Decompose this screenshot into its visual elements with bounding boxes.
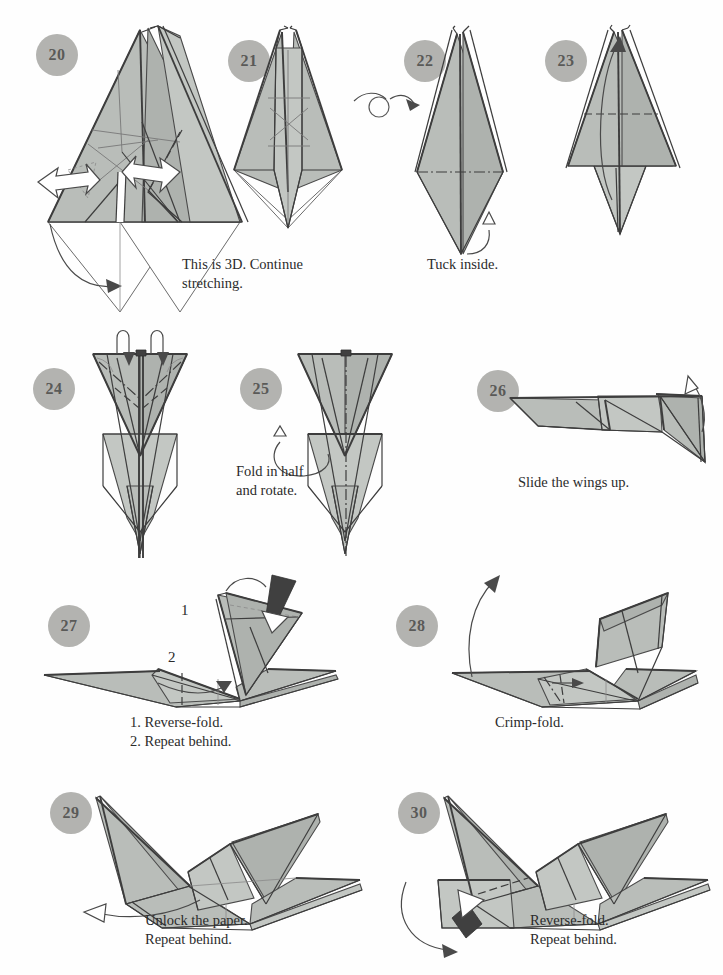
label-2: 2 bbox=[168, 648, 176, 668]
figure-step-24 bbox=[55, 336, 225, 561]
caption-step-21: This is 3D. Continue stretching. bbox=[182, 255, 303, 293]
figure-step-21 bbox=[218, 22, 358, 252]
figure-step-23 bbox=[550, 22, 690, 252]
caption-step-29: Unlock the paper. Repeat behind. bbox=[145, 911, 248, 949]
caption-step-22: Tuck inside. bbox=[427, 255, 498, 274]
figure-step-22 bbox=[395, 22, 530, 252]
figure-step-27 bbox=[40, 575, 340, 715]
caption-step-30: Reverse-fold. Repeat behind. bbox=[530, 911, 617, 949]
caption-step-28: Crimp-fold. bbox=[495, 713, 564, 732]
caption-step-25: Fold in half and rotate. bbox=[236, 462, 304, 500]
label-1: 1 bbox=[181, 601, 189, 621]
instruction-page: 20 bbox=[0, 0, 723, 975]
caption-step-27: 1. Reverse-fold. 2. Repeat behind. bbox=[130, 713, 231, 751]
caption-step-26: Slide the wings up. bbox=[518, 473, 629, 492]
lift-arrow-icon bbox=[469, 575, 500, 677]
figure-step-25 bbox=[288, 336, 458, 561]
step-number-badge: 25 bbox=[240, 368, 282, 410]
figure-step-28 bbox=[400, 575, 700, 715]
